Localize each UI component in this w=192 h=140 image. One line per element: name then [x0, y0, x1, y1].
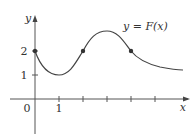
point-4-2	[129, 49, 133, 53]
curve-F	[35, 31, 183, 75]
x-axis-label: x	[180, 101, 187, 114]
y-tick-label-2: 2	[21, 45, 28, 58]
y-tick-label-1: 1	[21, 69, 28, 82]
x-tick-label-0: 0	[24, 102, 31, 115]
y-axis-label: y	[24, 12, 32, 25]
curve-label: y = F(x)	[122, 20, 168, 33]
point-0-2	[33, 49, 37, 53]
chart: 0 1 1 2 y x y = F(x)	[0, 0, 192, 140]
x-tick-label-1: 1	[56, 102, 63, 115]
y-axis-arrow-icon	[33, 15, 38, 22]
point-2-2	[81, 49, 85, 53]
